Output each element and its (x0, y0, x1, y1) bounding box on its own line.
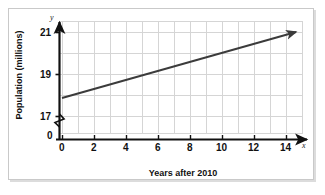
y-axis-origin-label: 0 (47, 130, 53, 141)
y-axis-letter: y (50, 13, 54, 22)
x-tick-label-0: 0 (59, 142, 65, 153)
x-axis-title: Years after 2010 (103, 168, 263, 178)
x-axis-letter: x (302, 141, 306, 150)
y-tick-label-21: 21 (40, 27, 51, 38)
x-tick-label-4: 4 (123, 142, 129, 153)
x-tick-label-14: 14 (280, 142, 291, 153)
chart-figure: y x 21 19 17 0 0 2 4 6 8 10 12 14 Popula… (0, 0, 325, 195)
y-tick-label-19: 19 (40, 69, 51, 80)
plot-background (59, 21, 302, 134)
x-tick-label-8: 8 (187, 142, 193, 153)
x-tick-label-12: 12 (248, 142, 259, 153)
y-axis-title: Population (millions) (14, 20, 24, 130)
x-tick-label-10: 10 (216, 142, 227, 153)
x-tick-label-2: 2 (91, 142, 97, 153)
y-tick-label-17: 17 (40, 111, 51, 122)
x-tick-label-6: 6 (155, 142, 161, 153)
